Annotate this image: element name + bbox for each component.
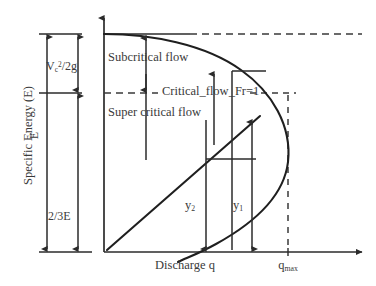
qmax-sub: max [284,264,297,273]
alternate-depth-sub: 2 [191,204,195,213]
initial-depth-sub: 1 [239,204,243,213]
label-initial-depth: y1 [233,199,243,212]
plot-dimension-arrows [146,38,288,256]
label-alternate-depth: y2 [185,199,195,212]
alternate-depth-chord [107,116,260,250]
x-axis-title: Discharge q [155,259,215,272]
label-critical-flow: Critical_flow_Fr=1 [162,85,259,98]
label-two-thirds-energy: 2/3E [48,210,71,222]
label-supercritical-flow: Super critical flow [108,106,201,119]
label-qmax: qmax [278,259,298,272]
label-total-energy: E [29,132,41,139]
velocity-head-base: V [46,59,55,73]
label-velocity-head: Vc2/2g [46,60,77,73]
alternate-depth-chord-group [107,116,260,250]
label-subcritical-flow: Subcritical flow [108,51,188,64]
velocity-head-rest: /2g [62,59,77,73]
specific-energy-diagram [0,0,376,286]
